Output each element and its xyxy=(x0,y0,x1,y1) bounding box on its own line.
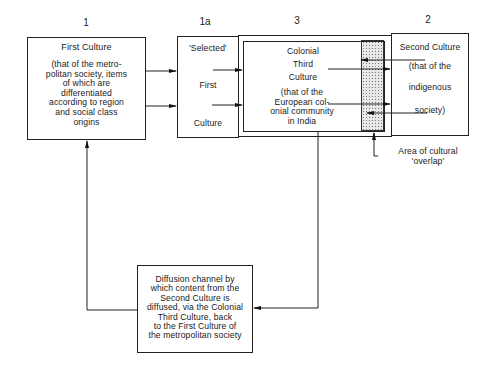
arrow-diffusion-to-first xyxy=(87,141,137,310)
connector-lines xyxy=(0,0,494,373)
arrow-colonial-to-diffusion xyxy=(254,132,318,308)
overlap-pointer-line xyxy=(374,133,378,156)
